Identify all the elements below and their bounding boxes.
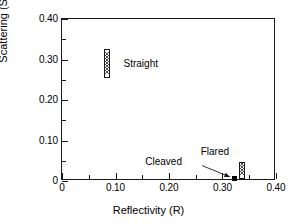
- y-tick-label: 0.30: [39, 55, 58, 65]
- x-tick-label: 0.10: [106, 183, 125, 193]
- x-tick-label: 0.30: [213, 183, 232, 193]
- y-tick-label: 0: [53, 176, 58, 186]
- x-tick-label: 0: [59, 183, 64, 193]
- x-tick-label: 0.40: [266, 183, 285, 193]
- x-tick-major: [276, 173, 277, 179]
- x-axis-title: Reflectivity (R): [0, 205, 297, 216]
- y-tick-label: 0.20: [39, 95, 58, 105]
- scatter-chart-figure: Scattering (S) Reflectivity (R) 00.100.2…: [0, 0, 297, 224]
- y-tick-label: 0.10: [39, 136, 58, 146]
- x-tick-label: 0.20: [159, 183, 178, 193]
- plot-area: 00.100.200.300.4000.100.200.300.40 Strai…: [61, 18, 275, 180]
- y-tick-label: 0.40: [39, 14, 58, 24]
- y-axis-title: Scattering (S): [0, 0, 9, 99]
- cleaved-arrow: [62, 19, 276, 181]
